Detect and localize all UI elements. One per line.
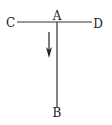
label-d: D [93, 17, 103, 31]
label-a: A [52, 9, 62, 23]
label-b: B [53, 106, 62, 120]
down-arrow-icon [46, 32, 52, 58]
t-diagram: C A D B [0, 0, 112, 125]
label-c: C [6, 16, 15, 30]
